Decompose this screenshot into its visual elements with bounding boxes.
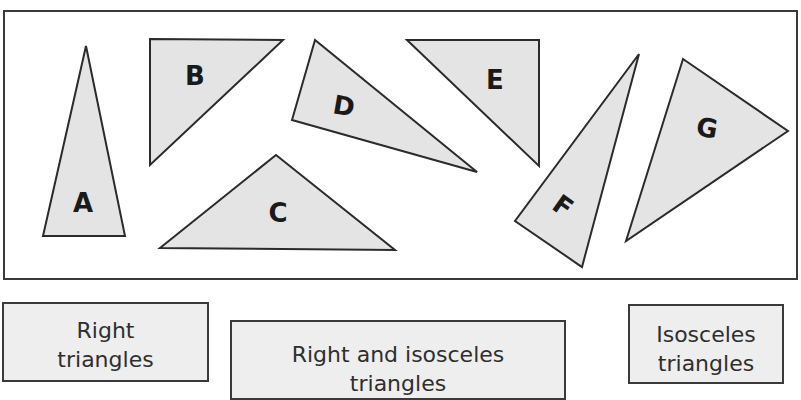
category-label-line1: Right — [4, 316, 207, 345]
triangle-a-label: A — [73, 188, 93, 218]
category-box-isosceles-triangles[interactable]: Isosceles triangles — [628, 304, 784, 384]
triangle-sorting-diagram: A B C D E F G — [0, 0, 801, 300]
category-label-line1: Right and isosceles — [232, 340, 564, 369]
category-label-line1: Isosceles — [630, 320, 782, 349]
triangle-c-label: C — [268, 198, 287, 228]
category-label-line2: triangles — [232, 369, 564, 398]
category-label-line2: triangles — [630, 349, 782, 378]
category-label-line2: triangles — [4, 345, 207, 374]
triangle-e-label: E — [486, 65, 504, 95]
category-box-right-and-isosceles[interactable]: Right and isosceles triangles — [230, 320, 566, 400]
triangle-b-label: B — [185, 61, 205, 91]
category-box-right-triangles[interactable]: Right triangles — [2, 302, 209, 382]
